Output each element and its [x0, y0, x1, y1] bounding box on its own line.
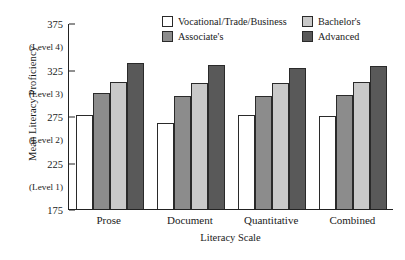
x-axis-category-label: Combined [329, 214, 375, 226]
y-axis-tick-mark [69, 210, 75, 211]
x-axis-category-label: Quantitative [244, 214, 298, 226]
bar [191, 83, 208, 209]
bar [127, 63, 144, 209]
y-axis-tick-label: 275 [3, 112, 63, 123]
plot-area [68, 24, 393, 210]
bar [370, 66, 387, 209]
bar [319, 116, 336, 209]
bar [110, 82, 127, 209]
bar [272, 83, 289, 209]
y-axis-tick-label: 225 [3, 158, 63, 169]
y-axis-level-label: (Level 3) [3, 89, 63, 99]
bar [157, 123, 174, 209]
bar-group [238, 24, 306, 209]
bar-group [319, 24, 387, 209]
y-axis-tick-mark [69, 70, 75, 71]
y-axis-tick-label: 375 [3, 19, 63, 30]
y-axis-tick-mark [69, 163, 75, 164]
y-axis-level-label: (Level 4) [3, 42, 63, 52]
bar [174, 96, 191, 209]
y-axis-tick-mark [69, 117, 75, 118]
bar [336, 95, 353, 209]
bar [255, 96, 272, 209]
bar-group [157, 24, 225, 209]
y-axis-title: Mean Literacy Proficiency [27, 9, 38, 199]
y-axis-tick-label: 325 [3, 65, 63, 76]
x-axis-category-label: Prose [96, 214, 120, 226]
y-axis-tick-mark [69, 24, 75, 25]
x-axis-category-label: Document [167, 214, 213, 226]
y-axis-level-label: (Level 2) [3, 135, 63, 145]
bar [76, 115, 93, 209]
bar [208, 65, 225, 209]
y-axis-tick-label: 175 [3, 205, 63, 216]
bar [353, 82, 370, 209]
bar [289, 68, 306, 209]
bar-group [76, 24, 144, 209]
y-axis-level-label: (Level 1) [3, 182, 63, 192]
bar [93, 93, 110, 209]
bar [238, 115, 255, 209]
bar-chart: Mean Literacy Proficiency Vocational/Tra… [0, 0, 405, 260]
x-axis-title: Literacy Scale [68, 232, 393, 243]
